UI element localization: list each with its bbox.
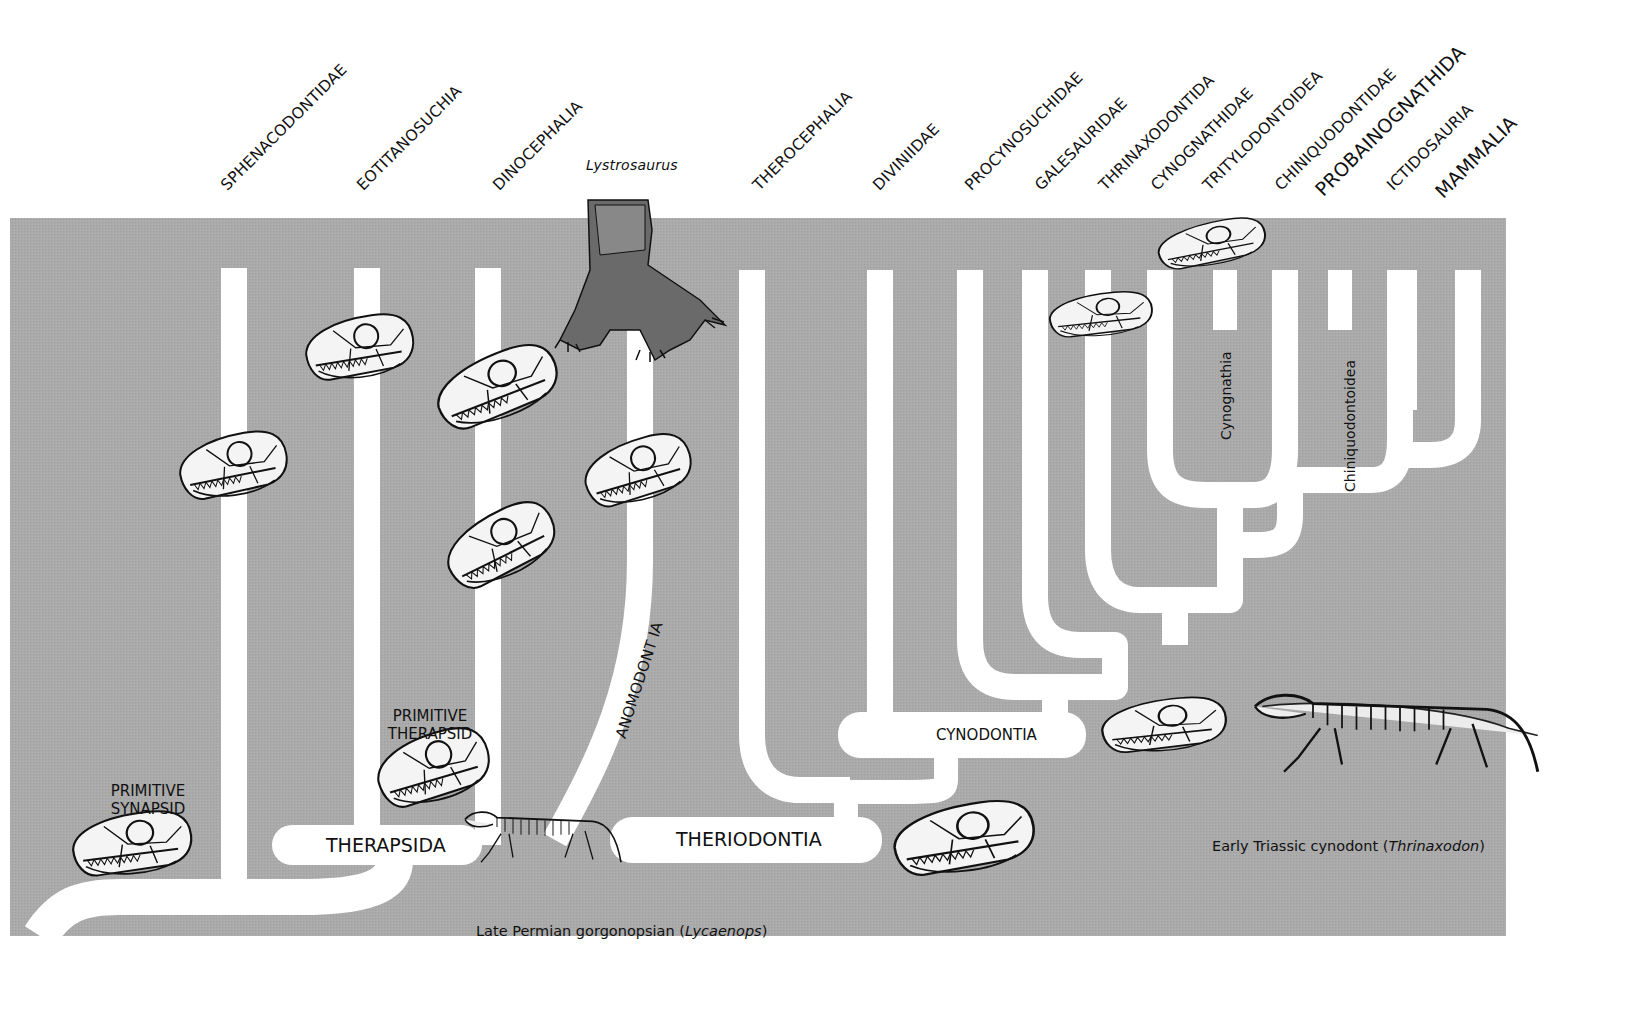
caption-primitive-synapsid: PRIMITIVE SYNAPSID xyxy=(88,782,208,818)
caption-genus: Lycaenops xyxy=(685,923,762,939)
caption-primitive-therapsid: PRIMITIVE THERAPSID xyxy=(380,707,480,743)
caption-line: PRIMITIVE xyxy=(380,707,480,725)
caption-text: ) xyxy=(762,923,768,939)
phylogeny-diagram: SPHENACODONTIDAE EOTITANOSUCHIA DINOCEPH… xyxy=(0,0,1641,1023)
caption-line: PRIMITIVE xyxy=(88,782,208,800)
caption-lycaenops: Late Permian gorgonopsian (Lycaenops) xyxy=(476,923,767,939)
caption-text: Early Triassic cynodont ( xyxy=(1212,838,1388,854)
label-chiniquodontoidea: Chiniquodontoidea xyxy=(1342,360,1358,492)
caption-thrinaxodon: Early Triassic cynodont (Thrinaxodon) xyxy=(1212,838,1485,854)
label-cynodontia: CYNODONTIA xyxy=(936,726,1037,744)
caption-line: SYNAPSID xyxy=(88,800,208,818)
caption-line: THERAPSID xyxy=(380,725,480,743)
caption-text: Late Permian gorgonopsian ( xyxy=(476,923,685,939)
label-lystrosaurus: Lystrosaurus xyxy=(586,157,678,173)
label-cynognathia: Cynognathia xyxy=(1218,351,1234,440)
caption-text: ) xyxy=(1479,838,1485,854)
label-therapsida: THERAPSIDA xyxy=(326,834,446,856)
label-theriodontia: THERIODONTIA xyxy=(676,828,822,850)
caption-genus: Thrinaxodon xyxy=(1388,838,1479,854)
